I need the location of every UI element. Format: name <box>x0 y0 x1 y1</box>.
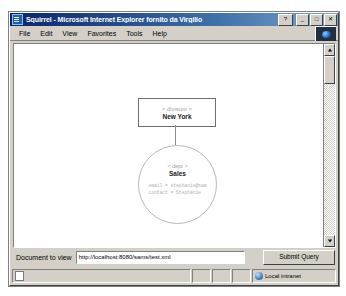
security-zone-label: Local intranet <box>265 273 301 279</box>
ie-document-icon <box>12 14 23 25</box>
node-dept-name: Sales <box>169 170 186 177</box>
node-dept-attributes: email = stephanie@sam contact = Stephani… <box>149 183 207 196</box>
window-titlebar[interactable]: Squirrel - Microsoft Internet Explorer f… <box>10 13 338 26</box>
scroll-down-arrow-icon[interactable] <box>324 235 335 247</box>
node-division-name: New York <box>162 113 191 120</box>
attribute-contact: contact = Stephanie <box>149 190 207 197</box>
local-intranet-icon <box>255 272 263 280</box>
xml-tree-diagram: < division > New York < dept > Sales ema… <box>14 44 323 247</box>
screenshot-root: Squirrel - Microsoft Internet Explorer f… <box>0 0 346 296</box>
help-button[interactable]: ? <box>278 14 293 26</box>
client-area: < division > New York < dept > Sales ema… <box>10 41 338 268</box>
status-segment-3 <box>232 269 251 283</box>
document-form: Document to view http://localhost:8080/s… <box>13 248 336 266</box>
maximize-button[interactable]: □ <box>310 14 323 26</box>
node-dept-tag: < dept > <box>167 163 187 169</box>
node-dept[interactable]: < dept > Sales email = stephanie@sam con… <box>138 145 217 224</box>
status-segment-2 <box>212 269 231 283</box>
vertical-scrollbar[interactable] <box>323 44 335 247</box>
minimize-button[interactable]: _ <box>296 14 309 26</box>
menu-item-file[interactable]: File <box>14 30 35 37</box>
node-division-tag: < division > <box>162 106 192 112</box>
scrollbar-thumb[interactable] <box>324 56 335 84</box>
browser-window: Squirrel - Microsoft Internet Explorer f… <box>9 12 339 286</box>
menu-item-edit[interactable]: Edit <box>35 30 57 37</box>
menu-item-help[interactable]: Help <box>148 30 172 37</box>
url-input[interactable]: http://localhost:8080/sams/test.xml <box>76 251 245 264</box>
node-division[interactable]: < division > New York <box>138 98 216 127</box>
menu-item-tools[interactable]: Tools <box>121 30 147 37</box>
edge-connector <box>175 125 176 145</box>
attribute-email: email = stephanie@sam <box>149 183 207 190</box>
close-button[interactable]: ✕ <box>324 14 337 26</box>
security-zone[interactable]: Local intranet <box>252 269 336 283</box>
menu-bar: File Edit View Favorites Tools Help <box>10 26 338 41</box>
internet-explorer-logo-icon <box>315 26 336 41</box>
status-bar: Local intranet <box>10 268 338 285</box>
submit-query-button[interactable]: Submit Query <box>263 250 335 265</box>
page-viewport: < division > New York < dept > Sales ema… <box>13 43 336 248</box>
scrollbar-track[interactable] <box>324 56 335 235</box>
window-controls: ? _ □ ✕ <box>278 14 337 26</box>
document-to-view-label: Document to view <box>16 254 72 261</box>
status-message <box>12 269 191 283</box>
scroll-up-arrow-icon[interactable] <box>324 44 335 56</box>
menu-item-favorites[interactable]: Favorites <box>82 30 121 37</box>
status-segment-1 <box>192 269 211 283</box>
menu-item-view[interactable]: View <box>57 30 82 37</box>
document-icon <box>15 271 24 281</box>
page-content: < division > New York < dept > Sales ema… <box>14 44 323 247</box>
window-title: Squirrel - Microsoft Internet Explorer f… <box>26 16 278 23</box>
